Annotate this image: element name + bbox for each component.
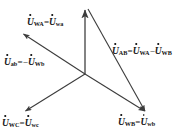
overdot-icon (135, 43, 137, 45)
subscript-wc: WC (9, 121, 20, 128)
symbol-u-wa-term: U (133, 47, 140, 57)
subscript-wb: WB (125, 120, 135, 127)
overdot-icon (5, 115, 7, 117)
subscript-wa-term: WA (140, 49, 150, 56)
overdot-icon (115, 43, 117, 45)
phasor-diagram-figure: UWA=Uwa UAB=UWA−UWB Uab=−UWb UWC=Uwc UWB… (0, 0, 185, 136)
subscript-ab: AB (119, 49, 128, 56)
overdot-icon (27, 115, 29, 117)
overdot-icon (30, 14, 32, 16)
symbol-u-wb-lhs: U (118, 118, 125, 128)
label-u-ab-small: Uab=−UWb (4, 58, 44, 68)
overdot-icon (7, 54, 9, 56)
subscript-wa-lower: wa (56, 20, 64, 27)
subscript-wb-term: WB (162, 49, 172, 56)
label-u-ab: UAB=UWA−UWB (112, 47, 172, 57)
label-u-wc: UWC=Uwc (2, 119, 39, 129)
label-u-wa: UWA=Uwa (27, 18, 63, 28)
symbol-u-wb-term: U (155, 47, 162, 57)
vector-u-wb (85, 74, 145, 111)
overdot-icon (143, 114, 145, 116)
subscript-wc-lower: wc (32, 121, 39, 128)
subscript-wa: WA (34, 20, 44, 27)
subscript-ab-lower: ab (11, 60, 18, 67)
label-u-wb: UWB=Uwb (118, 118, 155, 128)
overdot-icon (31, 54, 33, 56)
symbol-u-wa-rhs: U (49, 18, 56, 28)
operator-equals: = (17, 57, 22, 67)
overdot-icon (52, 14, 54, 16)
symbol-u-ab-small-lhs: U (4, 58, 11, 68)
symbol-u-wb-small: U (28, 58, 35, 68)
subscript-wb-lower: wb (147, 120, 155, 127)
vector-u-wc (26, 74, 86, 111)
vector-u-ab (88, 9, 145, 111)
vector-u-ab-small (24, 34, 86, 74)
symbol-u-ab-lhs: U (112, 47, 119, 57)
subscript-wb-mixed: Wb (35, 60, 45, 67)
overdot-icon (157, 43, 159, 45)
symbol-u-wc-lhs: U (2, 119, 9, 129)
overdot-icon (121, 114, 123, 116)
symbol-u-wa-lhs: U (27, 18, 34, 28)
symbol-u-wc-rhs: U (25, 119, 32, 129)
